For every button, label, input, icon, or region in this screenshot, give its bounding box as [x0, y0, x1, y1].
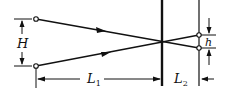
- H-arrowhead-up: [20, 20, 25, 27]
- L2-arrowhead: [201, 77, 208, 82]
- label-h: h: [205, 36, 212, 49]
- source-point-bottom: [34, 64, 39, 69]
- optics-diagram: H L1 L2 h: [0, 0, 227, 99]
- L1-arrowhead-left: [37, 77, 45, 82]
- h-arrowhead-down: [207, 27, 212, 34]
- H-arrowhead-down: [20, 58, 25, 65]
- ray-top: [36, 19, 199, 48]
- label-L1: L1: [86, 71, 101, 88]
- ray-arrow-top: [96, 27, 106, 33]
- L1-arrowhead-right: [153, 77, 161, 82]
- image-point-top: [197, 33, 201, 37]
- label-H: H: [16, 36, 29, 51]
- image-point-bottom: [197, 46, 201, 50]
- ray-bottom: [36, 35, 199, 66]
- ray-arrow-bottom: [101, 52, 111, 57]
- h-arrowhead-up: [207, 49, 212, 56]
- label-L2: L2: [173, 71, 188, 88]
- source-point-top: [34, 17, 39, 22]
